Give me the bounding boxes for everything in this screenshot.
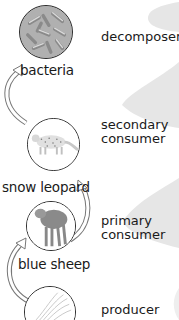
organism-label-bacteria: bacteria	[20, 62, 74, 78]
blue-sheep-image	[26, 201, 76, 251]
snow-leopard-icon	[28, 119, 79, 170]
role-label-consumer-primary: consumer	[101, 228, 165, 242]
bacteria-image	[19, 5, 73, 59]
organism-label-blue-sheep: blue sheep	[18, 256, 90, 272]
grass-icon	[25, 287, 75, 320]
role-label-decomposer: decomposer	[101, 30, 179, 44]
role-label-primary: primary	[101, 214, 152, 228]
bacteria-icon	[20, 6, 72, 58]
role-label-secondary: secondary	[101, 118, 168, 132]
snow-leopard-image	[27, 118, 80, 171]
role-label-producer: producer	[101, 303, 159, 317]
role-label-consumer-secondary: consumer	[101, 132, 165, 146]
blue-sheep-icon	[27, 202, 75, 250]
organism-label-snow-leopard: snow leopard	[2, 179, 90, 195]
